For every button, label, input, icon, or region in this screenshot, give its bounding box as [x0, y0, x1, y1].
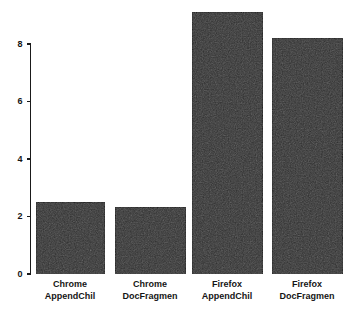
bar: [193, 12, 263, 274]
bar: [273, 38, 343, 274]
y-tick-label: 0: [17, 269, 22, 279]
y-tick-label: 2: [17, 211, 22, 221]
bar: [37, 202, 105, 274]
bar: [116, 208, 186, 274]
bar-chart: 02468 ChromeAppendChilChromeDocFragmenFi…: [0, 0, 350, 317]
category-label-line: AppendChil: [45, 291, 96, 301]
category-label-line: DocFragmen: [122, 291, 177, 301]
category-label-line: Chrome: [133, 279, 167, 289]
category-label-line: Chrome: [53, 279, 87, 289]
y-tick-label: 6: [17, 96, 22, 106]
category-label-line: Firefox: [292, 279, 322, 289]
category-label-line: DocFragmen: [279, 291, 334, 301]
category-label-line: Firefox: [212, 279, 242, 289]
y-tick-label: 4: [17, 154, 22, 164]
plot-area: 02468 ChromeAppendChilChromeDocFragmenFi…: [0, 0, 350, 317]
category-label-line: AppendChil: [202, 291, 253, 301]
y-tick-label: 8: [17, 39, 22, 49]
